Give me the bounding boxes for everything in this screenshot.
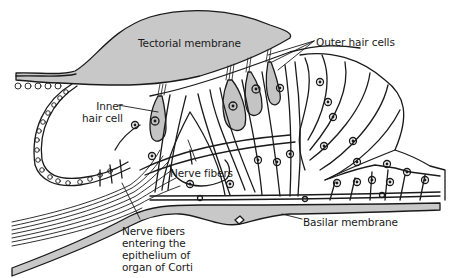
label-nerve-fibers-entering-line4: organ of Corti	[122, 261, 193, 273]
label-nerve-fibers-entering-line2: entering the	[122, 237, 193, 249]
outer-hair-cell-1	[223, 80, 246, 130]
leader-basilar-membrane	[282, 214, 302, 219]
label-nerve-fibers-entering-line3: epithelium of	[122, 249, 193, 261]
label-nerve-fibers: Nerve fibers	[170, 167, 233, 179]
hensen-cells-outline	[300, 54, 445, 200]
label-inner-hair-cell: Inner hair cell	[82, 100, 123, 124]
outer-hair-cell-3	[266, 62, 280, 105]
organ-of-corti-diagram: Tectorial membrane Outer hair cells Inne…	[0, 0, 464, 278]
label-nerve-fibers-entering: Nerve fibers entering the epithelium of …	[122, 225, 193, 273]
label-inner-hair-cell-line2: hair cell	[82, 112, 123, 124]
label-basilar-membrane: Basilar membrane	[303, 216, 398, 228]
label-inner-hair-cell-line1: Inner	[82, 100, 123, 112]
label-tectorial-membrane: Tectorial membrane	[138, 37, 241, 49]
label-outer-hair-cells: Outer hair cells	[316, 36, 395, 48]
label-nerve-fibers-entering-line1: Nerve fibers	[122, 225, 193, 237]
